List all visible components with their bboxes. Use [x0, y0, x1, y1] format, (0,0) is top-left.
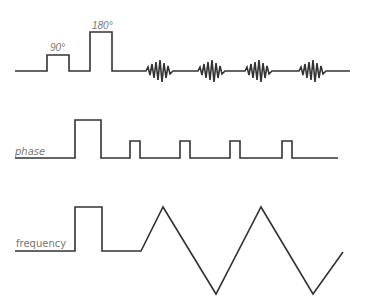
- pulse-sequence-diagram: 90° 180°: [0, 0, 369, 296]
- frequency-line: [15, 207, 343, 294]
- frequency-label: frequency: [16, 239, 66, 249]
- phase-label: phase: [15, 147, 45, 157]
- phase-line: [15, 120, 338, 158]
- rf-line: [15, 32, 350, 82]
- pulse-label-90: 90°: [50, 42, 65, 53]
- pulse-label-180: 180°: [92, 20, 113, 31]
